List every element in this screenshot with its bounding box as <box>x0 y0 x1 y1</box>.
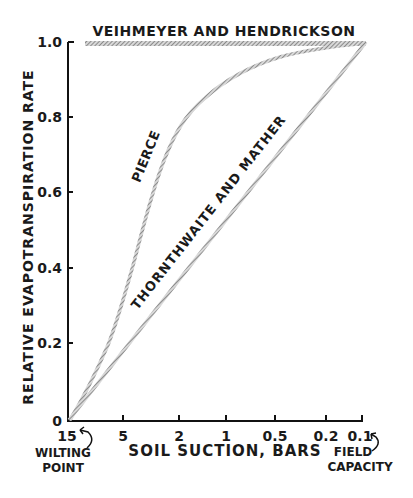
y-axis-label: RELATIVE EVAPOTRANSPIRATION RATE <box>20 69 36 404</box>
x-tick-15: 15 <box>57 428 76 444</box>
y-tick-1.0: 1.0 <box>37 34 62 50</box>
series-thornthwaite <box>69 42 366 420</box>
x-axis-label: SOIL SUCTION, BARS <box>128 442 321 460</box>
y-tick-0.2: 0.2 <box>37 335 62 351</box>
y-tick-0.6: 0.6 <box>37 184 62 200</box>
wilting-label-line1: WILTING <box>35 446 91 460</box>
y-tick-0.4: 0.4 <box>37 260 62 276</box>
label-veihmeyer: VEIHMEYER AND HENDRICKSON <box>92 23 355 39</box>
y-tick-0: 0 <box>52 413 62 429</box>
x-tick-5: 5 <box>118 428 128 444</box>
y-tick-0.8: 0.8 <box>37 109 62 125</box>
field-label-line1: FIELD <box>334 445 373 459</box>
wilting-label-line2: POINT <box>42 461 85 475</box>
x-tick-0.1: 0.1 <box>348 428 373 444</box>
y-tick-labels: 0 0.2 0.4 0.6 0.8 1.0 <box>37 34 62 429</box>
evapotranspiration-chart: 0 0.2 0.4 0.6 0.8 1.0 15 5 2 1 0.5 0.2 0… <box>0 0 413 498</box>
field-label-line2: CAPACITY <box>327 460 393 474</box>
